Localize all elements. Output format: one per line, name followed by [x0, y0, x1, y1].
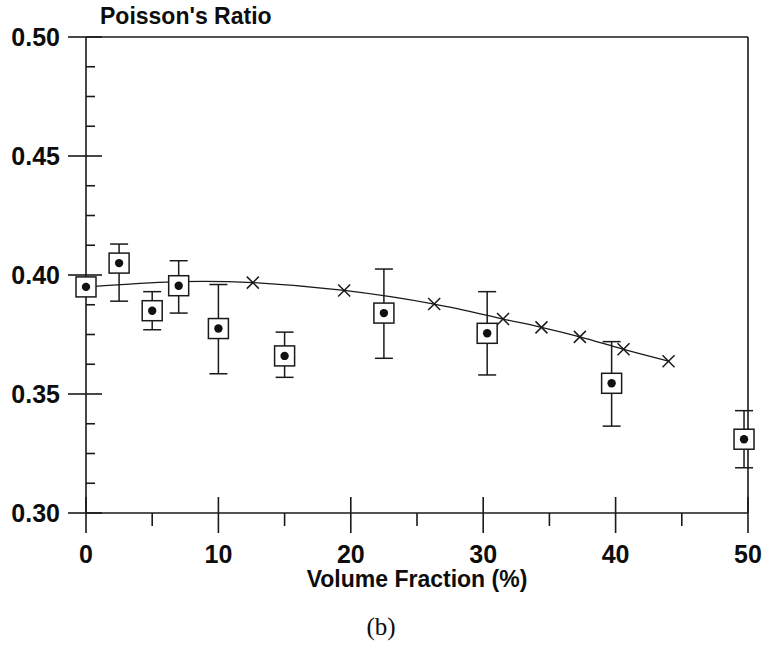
- measured-data-series: [76, 244, 754, 468]
- x-axis-tick-labels: 01020304050: [79, 540, 762, 568]
- model-point-x-marker: [535, 321, 547, 333]
- y-axis-tick-labels: 0.300.350.400.450.50: [11, 23, 60, 527]
- data-point: [374, 269, 394, 358]
- x-tick-label: 30: [469, 540, 497, 568]
- data-point: [734, 411, 754, 468]
- panel-caption: (b): [366, 613, 395, 641]
- data-point: [142, 292, 162, 330]
- model-point-x-marker: [428, 298, 440, 310]
- data-marker-dot: [148, 307, 156, 315]
- data-point: [76, 277, 96, 297]
- x-tick-label: 10: [204, 540, 232, 568]
- data-marker-dot: [214, 324, 222, 332]
- y-tick-label: 0.50: [11, 23, 60, 51]
- data-point: [275, 332, 295, 377]
- x-tick-label: 50: [734, 540, 762, 568]
- y-tick-label: 0.30: [11, 499, 60, 527]
- data-marker-dot: [380, 309, 388, 317]
- data-point: [208, 285, 228, 374]
- poissons-ratio-figure: Poisson's Ratio 0.300.350.400.450.50 010…: [0, 0, 763, 646]
- data-marker-dot: [280, 352, 288, 360]
- x-tick-label: 20: [337, 540, 365, 568]
- data-marker-dot: [483, 329, 491, 337]
- y-axis-ticks: [68, 37, 102, 513]
- model-point-x-marker: [574, 331, 586, 343]
- data-marker-dot: [82, 283, 90, 291]
- model-point-x-marker: [497, 313, 509, 325]
- data-point: [169, 261, 189, 313]
- x-axis-title: Volume Fraction (%): [307, 566, 528, 592]
- data-point: [477, 292, 497, 375]
- data-marker-dot: [740, 435, 748, 443]
- model-point-x-marker: [618, 343, 630, 355]
- y-tick-label: 0.35: [11, 380, 60, 408]
- model-point-x-marker: [663, 355, 675, 367]
- x-tick-label: 0: [79, 540, 93, 568]
- x-axis-ticks: [86, 497, 748, 533]
- data-marker-dot: [174, 282, 182, 290]
- data-marker-dot: [607, 379, 615, 387]
- y-tick-label: 0.45: [11, 142, 60, 170]
- data-marker-dot: [115, 259, 123, 267]
- x-tick-label: 40: [602, 540, 630, 568]
- chart-canvas: Poisson's Ratio 0.300.350.400.450.50 010…: [0, 0, 763, 646]
- chart-title: Poisson's Ratio: [100, 3, 272, 29]
- data-point: [109, 244, 129, 301]
- y-tick-label: 0.40: [11, 261, 60, 289]
